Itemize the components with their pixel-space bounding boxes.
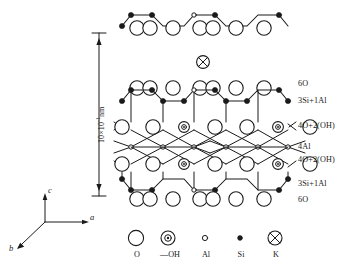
layer-label-mid-4Al: 4Al: [298, 142, 311, 151]
layer-label-bot-6O: 6O: [298, 195, 308, 204]
lower-anion-row: [115, 157, 317, 171]
legend-symbols: [128, 230, 282, 245]
dimension-label: 10×10-1nm: [95, 107, 106, 143]
upper-sheet-fragment: [119, 12, 288, 35]
layer-label-top-4O2OH: 4O+2(OH): [298, 121, 335, 130]
legend-oxygen-icon: [128, 230, 143, 245]
lower-anion-row-ticks: [114, 161, 296, 167]
layer-label-top-6O: 6O: [298, 79, 308, 88]
legend-silicon-icon: [238, 236, 243, 241]
axis-b-arrowhead: [17, 243, 24, 249]
upper-fragment-al-sites: [192, 13, 196, 17]
legend-label-oxygen: O: [128, 250, 146, 259]
figure-canvas: 10×10-1nm 6O 3Si+1Al 4O+2(OH) 4Al 4O+2(O…: [0, 0, 340, 272]
legend-label-potassium: K: [267, 250, 285, 259]
axis-label-b: b: [9, 243, 13, 253]
lower-tet-vertical-bonds: [122, 172, 288, 190]
octahedral-al-connections: [114, 141, 305, 153]
bottom-oxygen-row: [130, 192, 271, 206]
axis-triad: [17, 193, 89, 249]
interlayer-potassium: [197, 56, 210, 69]
legend-aluminium-icon: [202, 235, 207, 240]
axis-b-line: [21, 222, 45, 245]
axis-label-a: a: [90, 212, 94, 222]
axis-label-c: c: [48, 185, 52, 195]
upper-anion-row: [115, 120, 317, 134]
upper-anion-row-ticks: [114, 122, 296, 130]
legend-label-aluminium: Al: [197, 250, 215, 259]
legend-label-silicon: Si: [232, 250, 250, 259]
layer-label-bot-3Si1Al: 3Si+1Al: [298, 179, 327, 188]
upper-al-substitution: [192, 88, 196, 92]
tot-layer: [114, 81, 317, 206]
lower-al-substitution: [192, 188, 196, 192]
legend-label-hydroxyl: —OH: [152, 250, 188, 259]
axis-c-arrowhead: [43, 193, 48, 200]
crystal-structure-drawing: [0, 0, 340, 272]
legend-hydroxyl-icon: [161, 231, 175, 245]
axis-a-arrowhead: [82, 220, 89, 225]
layer-label-top-3Si1Al: 3Si+1Al: [298, 96, 327, 105]
legend-potassium-icon: [268, 231, 282, 245]
lower-tetrahedral-chain: [122, 179, 288, 190]
layer-label-bot-4O2OH: 4O+2(OH): [298, 155, 335, 164]
